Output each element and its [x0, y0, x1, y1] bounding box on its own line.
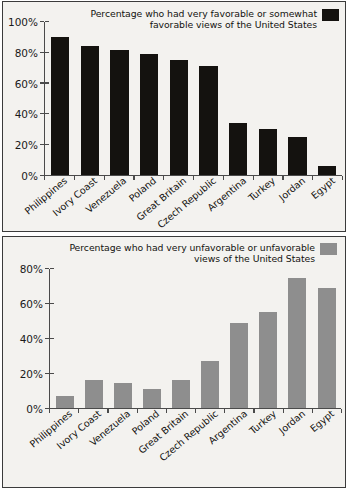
y-axis-tick-bottom [45, 303, 49, 304]
x-label-slot: Egypt [313, 178, 343, 232]
bar-egypt [318, 288, 336, 408]
y-axis-label-top: 60% [15, 78, 38, 90]
y-axis-tick-bottom [45, 268, 49, 269]
bar-slot [45, 22, 75, 175]
y-axis-tick-bottom [45, 338, 49, 339]
y-axis-tick-top [40, 113, 44, 114]
favorable-views-chart-panel: Percentage who had very favorable or som… [2, 1, 346, 232]
x-axis-label-text: Egypt [308, 408, 336, 434]
bar-jordan [288, 278, 306, 408]
y-axis-tick-inner-bottom [50, 303, 54, 304]
y-axis-label-bottom: 80% [20, 263, 43, 275]
y-axis-tick-top [40, 21, 44, 22]
chart-page: Percentage who had very favorable or som… [0, 0, 348, 490]
bar-slot [312, 269, 341, 408]
y-axis-label-bottom: 60% [20, 298, 43, 310]
y-axis-tick-top [40, 82, 44, 83]
bar-slot [164, 22, 194, 175]
y-axis-label-top: 0% [21, 170, 38, 182]
x-label-slot: Argentina [224, 178, 254, 232]
x-label-slot: Turkey [254, 178, 284, 232]
y-axis-label-bottom: 0% [26, 403, 43, 415]
y-axis-tick-inner-top [45, 52, 49, 53]
y-axis-tick-top [40, 144, 44, 145]
bar-slot [312, 22, 342, 175]
legend-unfavorable: Percentage who had very unfavorable or u… [65, 242, 337, 265]
x-label-slot: Venezuela [105, 178, 135, 232]
y-axis-tick-inner-top [45, 113, 49, 114]
y-axis-tick-inner-top [45, 82, 49, 83]
x-label-slot: Turkey [254, 411, 283, 465]
x-label-slot: Argentina [225, 411, 254, 465]
y-axis-tick-inner-bottom [50, 268, 54, 269]
y-axis-label-top: 100% [8, 16, 38, 28]
y-axis-tick-top [40, 52, 44, 53]
x-label-slot: Jordan [283, 178, 313, 232]
x-label-slot: Venezuela [108, 411, 137, 465]
x-label-slot: Jordan [284, 411, 313, 465]
y-axis-label-top: 20% [15, 139, 38, 151]
bar-slot [283, 22, 313, 175]
bar-great-britain [170, 60, 188, 175]
y-axis-label-bottom: 20% [20, 368, 43, 380]
x-axis-labels-bottom: PhilippinesIvory CoastVenezuelaPolandGre… [50, 411, 342, 465]
y-axis-tick-inner-bottom [50, 338, 54, 339]
bar-slot [50, 269, 79, 408]
y-axis-label-top: 80% [15, 47, 38, 59]
y-axis-label-top: 40% [15, 108, 38, 120]
y-axis-tick-inner-top [45, 144, 49, 145]
y-axis-tick-inner-bottom [50, 373, 54, 374]
legend-label-unfavorable: Percentage who had very unfavorable or u… [65, 242, 315, 265]
x-label-slot: Egypt [313, 411, 342, 465]
y-axis-label-bottom: 40% [20, 333, 43, 345]
y-axis-tick-inner-bottom [50, 408, 54, 409]
y-axis-tick-inner-top [45, 21, 49, 22]
unfavorable-views-chart-panel: Percentage who had very unfavorable or u… [2, 236, 346, 488]
y-axis-tick-inner-top [45, 175, 49, 176]
y-axis-tick-bottom [45, 373, 49, 374]
legend-swatch-unfavorable [320, 243, 337, 255]
x-axis-label-text: Egypt [309, 175, 337, 201]
legend-swatch-favorable [322, 9, 339, 21]
bar-philippines [51, 37, 69, 174]
bar-slot [283, 269, 312, 408]
x-axis-labels-top: PhilippinesIvory CoastVenezuelaPolandGre… [45, 178, 343, 232]
bar-slot [167, 269, 196, 408]
